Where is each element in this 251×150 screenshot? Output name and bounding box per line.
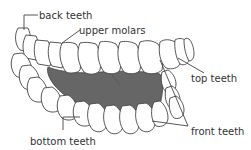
upper-tooth xyxy=(60,42,81,73)
upper-tooth xyxy=(118,41,141,73)
teeth-diagram: back teeth upper molars top teeth front … xyxy=(0,0,251,150)
upper-tooth xyxy=(98,41,121,73)
front-teeth-label: front teeth xyxy=(191,126,244,137)
top-teeth-label: top teeth xyxy=(191,73,237,84)
upper-molars-leader xyxy=(62,30,80,43)
upper-molars-label: upper molars xyxy=(79,25,146,36)
upper-tooth xyxy=(78,42,101,74)
back-teeth-label: back teeth xyxy=(39,10,92,21)
bottom-teeth-label: bottom teeth xyxy=(30,136,96,147)
